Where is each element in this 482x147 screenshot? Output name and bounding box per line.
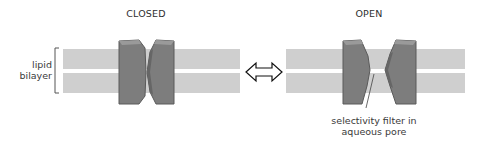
bilayer-bracket xyxy=(55,48,59,93)
closed-channel-right-subunit xyxy=(147,40,174,104)
double-headed-arrow-icon xyxy=(246,63,282,81)
lipid-bilayer-label-line2: bilayer xyxy=(19,70,52,81)
selectivity-filter-label: selectivity filter in aqueous pore xyxy=(331,115,416,137)
closed-title: CLOSED xyxy=(126,8,166,19)
lipid-bilayer-label: lipid bilayer xyxy=(19,59,52,81)
selectivity-filter-label-line2: aqueous pore xyxy=(331,126,416,137)
open-lipid-bilayer xyxy=(286,49,465,93)
closed-channel-left-subunit xyxy=(119,40,146,104)
open-title: OPEN xyxy=(355,8,382,19)
lipid-bilayer-label-line1: lipid xyxy=(19,59,52,70)
selectivity-filter-label-line1: selectivity filter in xyxy=(331,115,416,126)
